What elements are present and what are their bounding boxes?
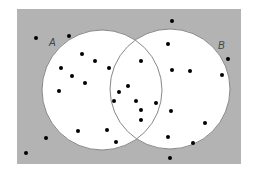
data-point (139, 118, 143, 122)
data-point (105, 128, 109, 132)
data-point (170, 19, 174, 23)
data-point (59, 66, 63, 70)
data-point (93, 59, 97, 63)
set-label: A (48, 37, 56, 48)
data-point (203, 121, 207, 125)
data-point (191, 141, 195, 145)
data-point (226, 57, 230, 61)
data-point (220, 73, 224, 77)
data-point (188, 69, 192, 73)
data-point (57, 89, 61, 93)
data-point (80, 52, 84, 56)
data-point (169, 109, 173, 113)
data-point (166, 42, 170, 46)
data-point (166, 135, 170, 139)
data-point (76, 129, 80, 133)
data-point (139, 59, 143, 63)
data-point (34, 36, 38, 40)
data-point (117, 90, 121, 94)
data-point (134, 99, 138, 103)
data-point (107, 66, 111, 70)
set-label: B (218, 40, 225, 51)
data-point (168, 156, 172, 160)
data-point (114, 140, 118, 144)
data-point (24, 151, 28, 155)
data-point (112, 99, 116, 103)
data-point (67, 34, 71, 38)
data-point (139, 108, 143, 112)
data-point (170, 68, 174, 72)
set-b-circle (110, 29, 230, 149)
data-point (154, 101, 158, 105)
data-point (70, 74, 74, 78)
data-point (126, 84, 130, 88)
venn-diagram: AB (0, 0, 254, 175)
data-point (44, 136, 48, 140)
data-point (83, 81, 87, 85)
